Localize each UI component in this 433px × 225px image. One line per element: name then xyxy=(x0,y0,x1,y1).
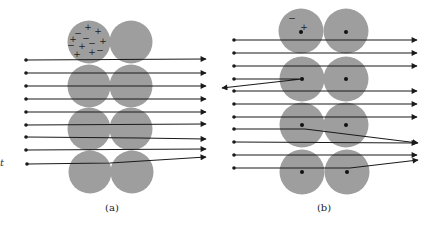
alpha-particle-path xyxy=(234,142,417,143)
panel-b-atoms xyxy=(279,9,370,195)
rutherford-scattering-diagram: +++++++−−−−− (a) −+ (b) t xyxy=(0,0,433,225)
particle-source-dot xyxy=(24,71,28,75)
alpha-particle-path xyxy=(26,149,206,150)
atom xyxy=(68,108,111,151)
particle-source-dot xyxy=(24,123,28,127)
nucleus-dot xyxy=(344,30,348,34)
positive-charge-icon: + xyxy=(84,22,92,32)
particle-source-dot xyxy=(25,162,29,166)
particle-source-dot xyxy=(232,64,236,68)
atom xyxy=(69,151,112,194)
particle-source-dot xyxy=(24,135,28,139)
nucleus-dot xyxy=(300,123,304,127)
particle-source-dot xyxy=(232,153,236,157)
panel-b-alpha-rays xyxy=(222,38,418,170)
atom xyxy=(110,21,153,64)
nucleus-dot xyxy=(345,170,349,174)
negative-charge-icon: − xyxy=(88,38,96,48)
alpha-particle-path xyxy=(26,59,206,60)
positive-charge-icon: + xyxy=(300,22,308,32)
particle-source-dot xyxy=(232,127,236,131)
negative-charge-icon: − xyxy=(67,40,75,50)
particle-source-dot xyxy=(232,166,236,170)
particle-source-dot xyxy=(232,140,236,144)
alpha-particle-path xyxy=(234,129,418,143)
positive-charge-icon: + xyxy=(94,26,102,36)
particle-source-dot xyxy=(232,115,236,119)
panel-a-plum-pudding-model: +++++++−−−−− (a) xyxy=(24,21,206,214)
particle-source-dot xyxy=(232,77,236,81)
positive-charge-icon: + xyxy=(88,47,96,57)
nucleus-dot xyxy=(300,170,304,174)
nucleus-dot xyxy=(344,123,348,127)
nucleus-dot xyxy=(344,77,348,81)
particle-source-dot xyxy=(24,84,28,88)
particle-source-dot xyxy=(24,110,28,114)
cropped-text-fragment: t xyxy=(0,157,5,168)
atom xyxy=(111,151,154,194)
panel-b-nuclear-model: −+ (b) xyxy=(222,9,418,214)
panel-a-label: (a) xyxy=(105,202,119,213)
particle-source-dot xyxy=(232,102,236,106)
panel-b-label: (b) xyxy=(317,202,331,213)
particle-source-dot xyxy=(232,51,236,55)
particle-source-dot xyxy=(24,148,28,152)
negative-charge-icon: − xyxy=(288,13,296,23)
particle-source-dot xyxy=(232,38,236,42)
particle-source-dot xyxy=(24,97,28,101)
atom xyxy=(110,108,153,151)
alpha-particle-path xyxy=(26,124,206,125)
particle-source-dot xyxy=(24,58,28,62)
positive-charge-icon: + xyxy=(73,49,81,59)
negative-charge-icon: − xyxy=(74,28,82,38)
negative-charge-icon: − xyxy=(96,45,104,55)
particle-source-dot xyxy=(232,89,236,93)
